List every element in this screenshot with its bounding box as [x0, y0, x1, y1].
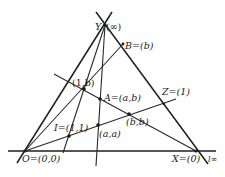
label-y-coord: (∞)	[106, 21, 121, 32]
label-b: B=(b)	[124, 40, 154, 51]
point-a-a	[96, 123, 100, 127]
point-a	[98, 97, 102, 101]
labels: Y (∞) B=(b) (1,b) A=(a,b) Z=(1) (b,b) (a…	[22, 21, 217, 164]
label-b-b: (b,b)	[126, 116, 149, 127]
label-one-b: (1,b)	[72, 77, 95, 88]
label-l-infinity: l∞	[208, 155, 217, 164]
label-x: X=(0)	[171, 153, 200, 164]
label-a-a: (a,a)	[99, 128, 121, 139]
line-y-x	[96, 12, 208, 164]
line-o-z	[25, 99, 176, 151]
label-i: I=(1,1)	[53, 122, 89, 133]
point-b	[122, 43, 125, 46]
point-i	[67, 134, 71, 138]
label-y: Y	[95, 21, 103, 32]
label-a: A=(a,b)	[103, 92, 141, 103]
point-z	[163, 103, 165, 105]
label-o: O=(0,0)	[22, 153, 61, 164]
label-z: Z=(1)	[161, 86, 190, 97]
projective-plane-diagram: Y (∞) B=(b) (1,b) A=(a,b) Z=(1) (b,b) (a…	[0, 0, 225, 177]
